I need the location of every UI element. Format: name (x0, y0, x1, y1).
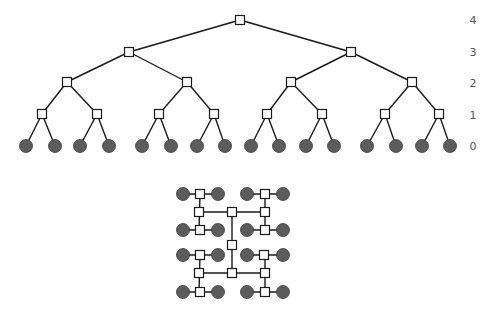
switch-node-square (196, 288, 205, 297)
leaf-node-circle (212, 188, 225, 201)
fat-tree-edges (26, 20, 450, 146)
leaf-node-circle (277, 286, 290, 299)
leaf-node-circle (361, 140, 374, 153)
switch-node-square (261, 208, 270, 217)
leaf-node-circle (241, 188, 254, 201)
switch-node-square (228, 241, 237, 250)
switch-node-square (347, 48, 356, 57)
leaf-node-circle (219, 140, 232, 153)
tree-link (129, 20, 240, 52)
leaf-node-circle (136, 140, 149, 153)
leaf-node-circle (245, 140, 258, 153)
leaf-node-circle (444, 140, 457, 153)
switch-node-square (210, 110, 219, 119)
switch-node-square (196, 226, 205, 235)
switch-node-square (260, 251, 269, 260)
leaf-node-circle (277, 249, 290, 262)
switch-node-square (228, 208, 237, 217)
leaf-node-circle (177, 286, 190, 299)
switch-node-square (155, 110, 164, 119)
switch-node-square (63, 78, 72, 87)
level-label: 4 (470, 14, 477, 27)
leaf-node-circle (177, 224, 190, 237)
leaf-node-circle (212, 224, 225, 237)
level-label: 0 (470, 140, 477, 153)
switch-node-square (318, 110, 327, 119)
leaf-node-circle (177, 188, 190, 201)
leaf-node-circle (241, 224, 254, 237)
leaf-node-circle (177, 249, 190, 262)
leaf-node-circle (277, 188, 290, 201)
tree-link (67, 52, 129, 82)
level-label: 2 (470, 77, 477, 90)
switch-node-square (93, 110, 102, 119)
tree-link (129, 52, 187, 82)
switch-node-square (196, 251, 205, 260)
level-label: 3 (470, 46, 477, 59)
leaf-node-circle (416, 140, 429, 153)
switch-node-square (196, 190, 205, 199)
switch-node-square (435, 110, 444, 119)
network-topology-diagram: 43210 (0, 0, 498, 310)
leaf-node-circle (277, 224, 290, 237)
switch-node-square (195, 208, 204, 217)
leaf-node-circle (212, 286, 225, 299)
leaf-node-circle (328, 140, 341, 153)
switch-node-square (183, 78, 192, 87)
leaf-node-circle (20, 140, 33, 153)
leaf-node-circle (300, 140, 313, 153)
switch-node-square (38, 110, 47, 119)
switch-node-square (125, 48, 134, 57)
leaf-node-circle (241, 249, 254, 262)
leaf-node-circle (191, 140, 204, 153)
switch-node-square (287, 78, 296, 87)
switch-node-square (236, 16, 245, 25)
switch-node-square (408, 78, 417, 87)
switch-node-square (261, 226, 270, 235)
leaf-node-circle (49, 140, 62, 153)
tree-link (291, 52, 351, 82)
switch-node-square (261, 190, 270, 199)
leaf-node-circle (74, 140, 87, 153)
htree-nodes (177, 188, 290, 299)
tree-link (240, 20, 351, 52)
switch-node-square (195, 269, 204, 278)
leaf-node-circle (212, 249, 225, 262)
level-label: 1 (470, 109, 477, 122)
switch-node-square (228, 269, 237, 278)
leaf-node-circle (390, 140, 403, 153)
switch-node-square (261, 288, 270, 297)
tree-link (351, 52, 412, 82)
leaf-node-circle (165, 140, 178, 153)
switch-node-square (261, 269, 270, 278)
leaf-node-circle (241, 286, 254, 299)
switch-node-square (263, 110, 272, 119)
switch-node-square (381, 110, 390, 119)
leaf-node-circle (103, 140, 116, 153)
level-labels: 43210 (470, 14, 477, 153)
leaf-node-circle (273, 140, 286, 153)
